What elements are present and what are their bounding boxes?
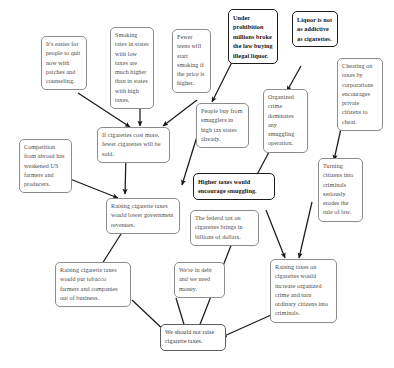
node-lower-revenues[interactable]: Raising cigarette taxes would lower gove… [106, 198, 180, 234]
node-debt[interactable]: We're in debt and we need money. [174, 262, 225, 298]
node-smugglers[interactable]: People buy from smugglers in high tax st… [196, 103, 249, 148]
node-criminals[interactable]: Raising taxes on cigarettes would increa… [270, 259, 337, 323]
argument-map-canvas: It's easier for people to quit now with … [0, 0, 394, 368]
node-teens[interactable]: Fewer teens will start smoking if the pr… [172, 29, 211, 93]
node-competition[interactable]: Competition from abroad has weakened US … [19, 139, 72, 193]
node-organized-crime[interactable]: Organized crime dominates any smuggling … [263, 89, 308, 153]
node-liquor-claim[interactable]: Liquor is not as addictive as cigarettes… [292, 11, 338, 47]
arrow-teens-to-costmore [163, 100, 197, 126]
arrow-ruleoflaw-to-criminals [299, 202, 312, 258]
node-cost-more[interactable]: If cigarettes cost more, fewer cigarette… [97, 127, 170, 163]
node-patches[interactable]: It's easier for people to quit now with … [41, 36, 87, 90]
node-smoking-rates[interactable]: Smoking rates in states with low taxes a… [110, 27, 154, 109]
node-federal-tax[interactable]: The federal tax on cigarettes brings in … [190, 210, 259, 246]
arrow-liquor-to-orgcrime [287, 66, 301, 91]
arrow-smuggling-to-criminals [266, 210, 285, 258]
arrow-prohibition-to-smugglers [212, 62, 232, 102]
node-conclusion[interactable]: We should not raise cigarette taxes. [160, 324, 226, 351]
node-smuggling-claim[interactable]: Higher taxes would encourage smuggling. [193, 173, 275, 200]
node-rule-of-law[interactable]: Turning citizens into criminals seriousl… [318, 158, 363, 222]
node-farmers[interactable]: Raising cigarette taxes would put tobacc… [55, 262, 131, 307]
node-cheating[interactable]: Cheating on taxes by corporations encour… [337, 58, 383, 131]
node-prohibition-claim[interactable]: Under prohibition millions broke the law… [228, 9, 278, 64]
